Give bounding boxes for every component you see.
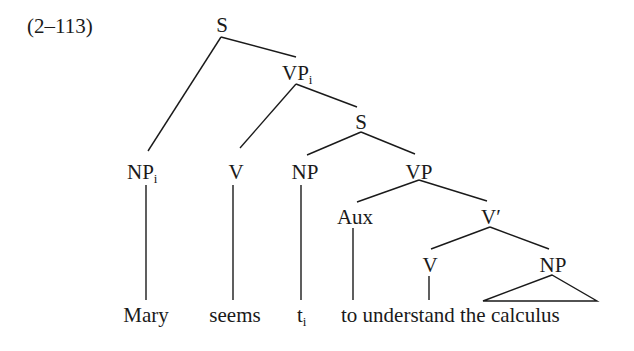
node-v-understand: V bbox=[422, 253, 437, 277]
tree-leaves: Mary seems ti to understand the calculus bbox=[123, 303, 559, 329]
node-s-inner: S bbox=[355, 110, 367, 134]
edge-vpi-s bbox=[296, 84, 357, 107]
tree-nodes: S VPi S NPi V NP VP Aux V′ V NP bbox=[127, 13, 566, 277]
edge-s-vp bbox=[361, 132, 415, 154]
node-np-trace: NP bbox=[292, 160, 319, 184]
example-number: (2–113) bbox=[27, 14, 93, 38]
syntax-tree: (2–113) S VPi S NPi bbox=[0, 0, 634, 351]
node-v-bar: V′ bbox=[481, 205, 501, 229]
edge-s-npi bbox=[148, 37, 221, 151]
node-np-obj: NP bbox=[540, 253, 567, 277]
edge-s-vpi bbox=[221, 37, 296, 57]
node-v-seems: V bbox=[228, 160, 243, 184]
node-vp: VP bbox=[406, 160, 433, 184]
node-s-root: S bbox=[216, 13, 228, 37]
leaf-to-understand-the-calculus: to understand the calculus bbox=[341, 303, 560, 327]
edge-vbar-np bbox=[490, 227, 549, 249]
edge-vbar-v bbox=[431, 227, 490, 249]
np-triangle bbox=[483, 275, 597, 301]
edge-s-np bbox=[307, 132, 361, 155]
tree-edges bbox=[146, 37, 597, 301]
leaf-mary: Mary bbox=[123, 303, 169, 327]
node-aux: Aux bbox=[337, 205, 374, 229]
edge-vpi-v bbox=[240, 84, 296, 148]
node-vp-i: VPi bbox=[282, 61, 313, 87]
leaf-trace: ti bbox=[297, 303, 307, 329]
node-np-i: NPi bbox=[127, 160, 158, 186]
leaf-seems: seems bbox=[209, 303, 260, 327]
